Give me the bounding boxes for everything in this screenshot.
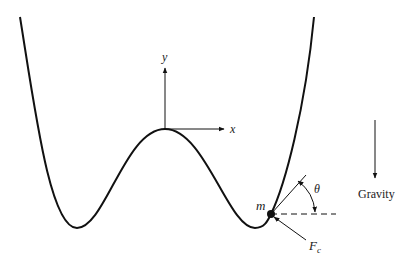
gravity-label: Gravity: [358, 187, 395, 201]
constraint-force-arrow: [274, 217, 306, 240]
double-well-diagram: y x θ m Fc Gravity: [0, 0, 409, 254]
theta-label: θ: [314, 182, 320, 196]
mass-point: [267, 210, 275, 218]
constraint-force-label: Fc: [308, 238, 321, 254]
y-axis-label: y: [161, 50, 168, 64]
tangent-line: [271, 175, 306, 214]
x-axis-label: x: [229, 122, 236, 136]
mass-label: m: [256, 198, 265, 213]
angle-arc: [298, 181, 315, 212]
potential-curve: [20, 17, 314, 228]
